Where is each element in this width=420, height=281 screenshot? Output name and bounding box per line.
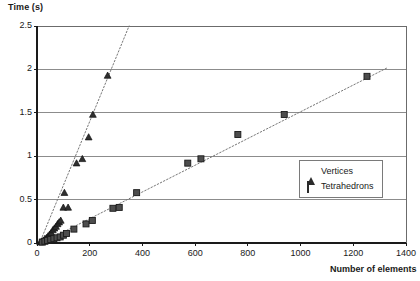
y-tick-label: 1.5 [2,107,32,117]
triangle-marker-icon [307,167,316,176]
y-tick-label: 1 [2,150,32,160]
data-points [37,72,370,245]
square-marker-icon [307,182,316,191]
legend-label-tetrahedrons: Tetrahedrons [321,181,374,191]
axis-frame [37,26,406,243]
y-tick-label: 0.5 [2,194,32,204]
trendlines [40,26,388,243]
x-tick-label: 600 [175,248,215,258]
y-tick-label: 2.5 [2,20,32,30]
legend-label-vertices: Vertices [321,166,353,176]
y-tick-label: 0 [2,237,32,247]
chart-legend: Vertices Tetrahedrons [299,160,383,198]
x-tick-label: 0 [17,248,57,258]
x-tick-label: 1200 [333,248,373,258]
y-tick-label: 2 [2,63,32,73]
x-tick-label: 1400 [386,248,420,258]
x-tick-label: 1000 [281,248,321,258]
x-tick-label: 800 [228,248,268,258]
x-tick-label: 200 [70,248,110,258]
legend-item-vertices: Vertices [307,166,353,176]
x-tick-label: 400 [122,248,162,258]
plot-area [0,0,420,281]
legend-item-tetrahedrons: Tetrahedrons [307,181,374,191]
chart-container: Time (s) Number of elements 00.511.522.5… [0,0,420,281]
